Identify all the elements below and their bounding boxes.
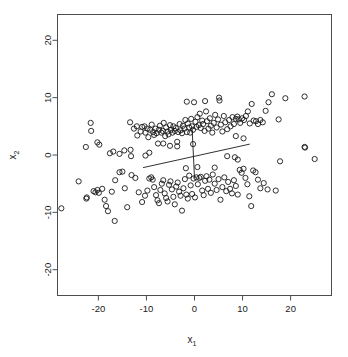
x-tick-label: 20 xyxy=(285,303,296,314)
x-tick-label: 10 xyxy=(237,303,248,314)
x-axis-label-subscript: 1 xyxy=(193,340,197,347)
x-tick-label: 0 xyxy=(192,303,197,314)
x-tick-label: -20 xyxy=(91,303,105,314)
scatter-plot-figure: -20-1001020 -20-1001020 x1 x2 xyxy=(0,0,348,357)
plot-canvas: -20-1001020 -20-1001020 x1 x2 xyxy=(0,0,348,357)
y-tick-label: 20 xyxy=(42,35,53,46)
y-tick-label: -10 xyxy=(42,205,53,219)
y-axis-label-subscript: 2 xyxy=(13,150,20,154)
y-tick-label: 10 xyxy=(42,92,53,103)
y-tick-label: -20 xyxy=(42,263,53,277)
x-tick-label: -10 xyxy=(140,303,154,314)
y-tick-label: 0 xyxy=(42,152,53,157)
